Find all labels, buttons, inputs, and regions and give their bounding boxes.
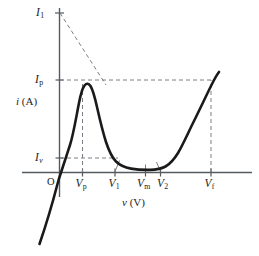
figure-canvas: I1 Ip Iv O Vp V1 Vm V2 Vf i (A) v (V) bbox=[0, 0, 259, 256]
diode-characteristic-curve bbox=[40, 72, 220, 244]
x-axis-title-var: v bbox=[122, 196, 127, 208]
y-tick-label-Ip: Ip bbox=[35, 74, 43, 86]
x-tick-label-Vm: Vm bbox=[137, 178, 150, 190]
y-tick-label-I1-subscript: 1 bbox=[40, 11, 44, 20]
x-tick-label-Vm-subscript: m bbox=[144, 182, 150, 191]
y-tick-label-Iv-subscript: v bbox=[39, 156, 42, 165]
y-axis-title: i (A) bbox=[16, 96, 37, 107]
load-line-dashed bbox=[60, 13, 106, 85]
y-axis-title-var: i bbox=[16, 95, 19, 107]
x-tick-label-Vf: Vf bbox=[205, 178, 215, 190]
x-tick-label-Vp: Vp bbox=[76, 178, 87, 190]
x-tick-label-Vp-subscript: p bbox=[83, 182, 87, 191]
x-axis-title: v (V) bbox=[122, 197, 145, 208]
x-tick-label-V2-subscript: 2 bbox=[164, 182, 168, 191]
y-tick-label-Iv: Iv bbox=[35, 152, 42, 164]
origin-label: O bbox=[47, 177, 55, 188]
x-tick-label-V2: V2 bbox=[157, 178, 168, 190]
x-axis-title-unit: (V) bbox=[130, 196, 145, 208]
y-tick-label-Ip-subscript: p bbox=[39, 78, 43, 87]
iv-characteristic-plot bbox=[0, 0, 259, 256]
y-axis-title-unit: (A) bbox=[22, 95, 37, 107]
x-tick-label-V1-subscript: 1 bbox=[116, 182, 120, 191]
y-tick-label-I1: I1 bbox=[36, 7, 44, 19]
x-tick-label-V1: V1 bbox=[109, 178, 120, 190]
